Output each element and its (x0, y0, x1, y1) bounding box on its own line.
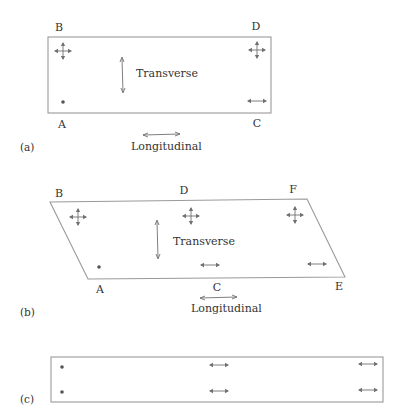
four-way-arrows-icon (286, 206, 304, 224)
four-way-arrows-icon (69, 208, 87, 226)
fixed-bearing-dot-icon (60, 365, 64, 369)
longitudinal-arrow-icon (143, 132, 180, 137)
four-way-arrows-icon (54, 42, 72, 60)
corner-label-d: D (252, 20, 261, 33)
panel-c: (c) (20, 357, 383, 405)
fixed-bearing-dot-icon (97, 265, 101, 269)
horizontal-arrows-icon (200, 263, 220, 267)
fixed-bearing-dot-icon (60, 390, 64, 394)
horizontal-arrows-icon (358, 362, 378, 366)
longitudinal-arrow-icon (200, 295, 237, 300)
four-way-arrows-icon (182, 207, 200, 225)
transverse-label: Transverse (173, 235, 235, 248)
panel-a: B D A C Transverse Longitudinal (a) (20, 20, 271, 153)
corner-label-d: D (180, 184, 189, 197)
corner-label-c: C (213, 281, 221, 294)
corner-label-a: A (57, 118, 67, 131)
horizontal-arrows-icon (307, 262, 327, 266)
longitudinal-label: Longitudinal (191, 302, 262, 315)
horizontal-arrows-icon (358, 388, 378, 392)
panel-b: B D F A C E Transverse Longitudinal (b) (20, 183, 345, 318)
corner-label-f: F (289, 183, 297, 196)
corner-label-c: C (253, 117, 261, 130)
horizontal-arrows-icon (247, 99, 267, 103)
transverse-arrow-icon (155, 220, 160, 259)
corner-label-b: B (55, 21, 63, 34)
corner-label-a: A (95, 283, 105, 296)
transverse-arrow-icon (120, 57, 125, 93)
corner-label-b: B (55, 187, 63, 200)
panel-b-caption: (b) (20, 306, 35, 318)
fixed-bearing-dot-icon (61, 100, 65, 104)
four-way-arrows-icon (248, 41, 266, 59)
horizontal-arrows-icon (209, 389, 229, 393)
horizontal-arrows-icon (209, 363, 229, 367)
corner-label-e: E (335, 280, 343, 293)
bearing-layout-diagram: B D A C Transverse Longitudinal (a) B D … (0, 0, 401, 420)
panel-c-caption: (c) (20, 393, 34, 405)
transverse-label: Transverse (136, 67, 198, 80)
panel-a-caption: (a) (20, 141, 34, 153)
longitudinal-label: Longitudinal (131, 140, 202, 153)
deck-plan-rectangle (51, 357, 383, 402)
